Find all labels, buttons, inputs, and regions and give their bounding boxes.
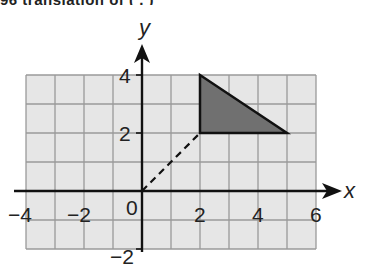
x-tick-label: 2 bbox=[194, 203, 206, 226]
x-tick-label: 6 bbox=[310, 203, 322, 226]
x-tick-label: −2 bbox=[67, 203, 91, 226]
y-axis-label: y bbox=[137, 15, 152, 40]
x-tick-label: 4 bbox=[252, 203, 264, 226]
coordinate-plane: x y −4 −2 0 2 4 6 4 2 −2 bbox=[0, 0, 374, 268]
y-tick-label: −2 bbox=[110, 245, 134, 268]
x-axis-label: x bbox=[343, 178, 356, 203]
x-tick-label: 0 bbox=[126, 196, 138, 219]
x-tick-label: −4 bbox=[8, 203, 32, 226]
y-tick-label: 4 bbox=[119, 64, 131, 87]
y-tick-label: 2 bbox=[119, 122, 131, 145]
